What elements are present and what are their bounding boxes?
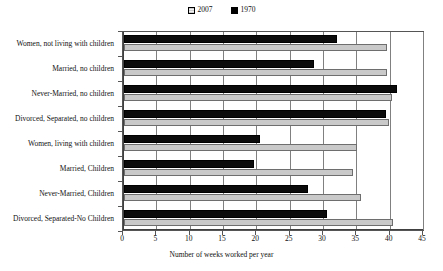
bar-1970 <box>124 135 260 143</box>
y-axis-labels: Women, not living with childrenMarried, … <box>0 31 118 231</box>
bar-row <box>124 207 423 232</box>
x-tick-label-10: 10 <box>185 234 193 244</box>
legend-swatch-2007-icon <box>188 7 195 14</box>
y-axis-label: Divorced, Separated-No Children <box>13 214 114 223</box>
bar-2007 <box>124 194 361 201</box>
x-tick-label-20: 20 <box>252 234 260 244</box>
bar-row <box>124 182 423 207</box>
y-axis-label: Women, not living with children <box>16 39 114 48</box>
bar-row <box>124 132 423 157</box>
y-axis-label: Never-Married, no children <box>31 89 114 98</box>
legend-entry-1970: 1970 <box>231 6 256 14</box>
bar-2007 <box>124 119 389 126</box>
bar-2007 <box>124 94 392 101</box>
legend-label-2007: 2007 <box>198 6 213 14</box>
bar-row <box>124 107 423 132</box>
grid-line-45 <box>423 32 424 230</box>
bar-1970 <box>124 35 337 43</box>
x-tick-label-15: 15 <box>218 234 226 244</box>
x-tick-label-5: 5 <box>153 234 157 244</box>
bar-1970 <box>124 210 327 218</box>
x-tick-label-25: 25 <box>285 234 293 244</box>
bar-rows <box>124 32 423 229</box>
bar-row <box>124 57 423 82</box>
x-tick-label-0: 0 <box>120 234 124 244</box>
bar-row <box>124 32 423 57</box>
y-axis-label: Married, Children <box>60 164 114 173</box>
bar-2007 <box>124 144 357 151</box>
bar-1970 <box>124 160 254 168</box>
y-axis-label: Married, no children <box>52 64 114 73</box>
chart-legend: 2007 1970 <box>0 6 443 14</box>
legend-swatch-1970-icon <box>231 7 238 14</box>
bar-row <box>124 82 423 107</box>
x-axis-title: Number of weeks worked per year <box>0 250 443 260</box>
legend-entry-2007: 2007 <box>188 6 213 14</box>
bar-2007 <box>124 169 353 176</box>
x-tick-label-30: 30 <box>318 234 326 244</box>
y-axis-label: Never-Married, Children <box>39 189 114 198</box>
bar-chart: 2007 1970 Women, not living with childre… <box>0 0 443 271</box>
bar-row <box>124 157 423 182</box>
x-tick-label-40: 40 <box>385 234 393 244</box>
bar-2007 <box>124 69 387 76</box>
bar-1970 <box>124 85 397 93</box>
legend-label-1970: 1970 <box>241 6 256 14</box>
bar-1970 <box>124 60 314 68</box>
x-axis-tick-labels: 051015202530354045 <box>0 234 443 246</box>
plot-area <box>122 31 424 231</box>
bar-2007 <box>124 44 387 51</box>
x-tick-label-35: 35 <box>352 234 360 244</box>
x-tick-label-45: 45 <box>418 234 426 244</box>
bar-1970 <box>124 110 386 118</box>
bar-1970 <box>124 185 308 193</box>
y-axis-label: Women, living with children <box>28 139 114 148</box>
y-axis-label: Divorced, Separated, no children <box>15 114 114 123</box>
bar-2007 <box>124 219 393 226</box>
